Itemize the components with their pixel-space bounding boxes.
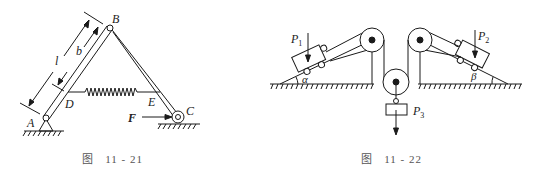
label-p3-sub: 3 xyxy=(420,111,424,120)
ground-hatch-right xyxy=(419,84,521,89)
label-b-length: b xyxy=(76,45,82,57)
pin-a xyxy=(43,115,49,121)
label-d-point: D xyxy=(65,98,74,110)
label-p3: P3 xyxy=(413,105,424,120)
ground-hatch-left xyxy=(271,84,373,89)
ground-hatch-c xyxy=(158,124,196,129)
pulley-incline-diagram xyxy=(250,0,542,174)
caption-11-21: 图 11 - 21 xyxy=(82,150,143,166)
figure-11-22: P1 P2 P3 α β 图 11 - 22 xyxy=(250,0,542,174)
caption-number: 11 - 21 xyxy=(105,153,143,165)
ground-hatch-a xyxy=(23,131,61,136)
label-p1: P1 xyxy=(291,33,302,48)
figure-11-21: B l b D E C A F 图 11 - 21 xyxy=(0,0,230,174)
label-l-length: l xyxy=(55,55,58,67)
label-p2-sub: 2 xyxy=(485,36,489,45)
caption-number: 11 - 22 xyxy=(384,153,422,165)
label-beta: β xyxy=(471,71,476,82)
frame-mechanism-diagram xyxy=(0,0,230,174)
caption-prefix: 图 xyxy=(361,153,373,165)
label-alpha: α xyxy=(302,74,308,85)
caption-prefix: 图 xyxy=(82,153,94,165)
label-p1-sub: 1 xyxy=(298,39,302,48)
caption-11-22: 图 11 - 22 xyxy=(361,150,422,166)
label-b-point: B xyxy=(112,13,119,25)
angle-alpha-arc xyxy=(296,77,298,84)
label-force-f: F xyxy=(128,112,136,124)
label-e-point: E xyxy=(148,96,155,108)
label-p2: P2 xyxy=(478,30,489,45)
angle-beta-arc xyxy=(492,77,493,84)
label-a-point: A xyxy=(27,117,34,129)
spring xyxy=(85,88,137,96)
label-c-point: C xyxy=(186,105,194,117)
